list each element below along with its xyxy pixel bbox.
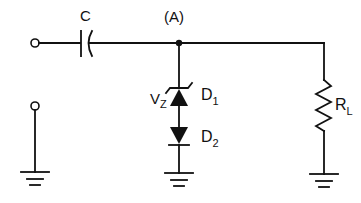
input-terminal-top — [31, 39, 39, 47]
circuit-schematic: C (A) VZ D1 D2 RL — [0, 0, 361, 203]
d1-label: D1 — [201, 86, 219, 107]
resistor-rl-zigzag — [316, 80, 331, 131]
diode-d2 — [169, 127, 189, 145]
capacitor-label: C — [80, 7, 91, 24]
d2-label: D2 — [201, 128, 219, 149]
ground-icon-center — [165, 173, 193, 186]
node-a-label: (A) — [164, 8, 184, 25]
input-terminal-bottom — [31, 102, 39, 110]
zener-voltage-label: VZ — [150, 90, 167, 110]
diode-d2-triangle — [170, 127, 188, 144]
ground-icon-right — [310, 174, 338, 187]
load-resistor-label: RL — [335, 96, 353, 117]
zener-d1-triangle — [170, 89, 188, 106]
ground-icon-left — [21, 172, 49, 185]
